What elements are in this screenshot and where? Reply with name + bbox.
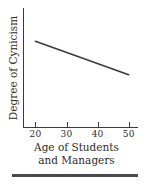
x-axis-tick bbox=[129, 122, 130, 127]
x-axis-title-line-1: Age of Students bbox=[10, 141, 143, 154]
y-axis-title: Degree of Cynicism bbox=[7, 8, 19, 128]
x-axis-tick-label: 20 bbox=[23, 129, 47, 140]
x-axis-tick-label: 40 bbox=[86, 129, 110, 140]
x-axis-line bbox=[23, 127, 138, 128]
chart-figure: 20304050 Degree of Cynicism Age of Stude… bbox=[0, 0, 150, 185]
x-axis-title-line-2: and Managers bbox=[10, 154, 143, 167]
y-axis-line bbox=[23, 8, 24, 128]
x-axis-tick bbox=[67, 122, 68, 127]
x-axis-title: Age of Students and Managers bbox=[10, 141, 143, 166]
x-axis-tick bbox=[98, 122, 99, 127]
x-axis-tick-label: 50 bbox=[117, 129, 141, 140]
x-axis-tick-label: 30 bbox=[55, 129, 79, 140]
x-axis-tick bbox=[35, 122, 36, 127]
bottom-rule bbox=[12, 174, 138, 177]
trend-line bbox=[35, 41, 128, 74]
